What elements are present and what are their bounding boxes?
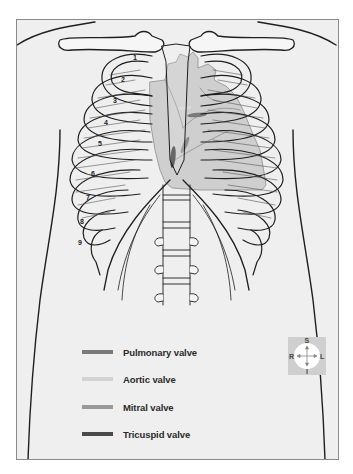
rib-number-2: 2 <box>121 76 125 83</box>
rib-number-9: 9 <box>78 239 82 246</box>
rib-number-3: 3 <box>113 97 117 104</box>
costal-margin <box>104 180 249 300</box>
compass-inferior: I <box>306 368 308 375</box>
rib-number-8: 8 <box>80 218 84 225</box>
compass-superior: S <box>305 337 310 344</box>
rib-number-1: 1 <box>133 54 137 61</box>
thorax-illustration: 1 2 3 4 5 6 7 8 9 <box>0 0 353 474</box>
rib-number-4: 4 <box>104 119 108 126</box>
rib-number-5: 5 <box>98 140 102 147</box>
compass-right: R <box>289 353 294 360</box>
right-ribs <box>70 54 152 275</box>
rib-number-7: 7 <box>86 194 90 201</box>
orientation-compass: S I R L <box>288 337 326 375</box>
compass-left: L <box>320 353 324 360</box>
vertebral-column <box>155 185 198 305</box>
rib-number-6: 6 <box>91 170 95 177</box>
